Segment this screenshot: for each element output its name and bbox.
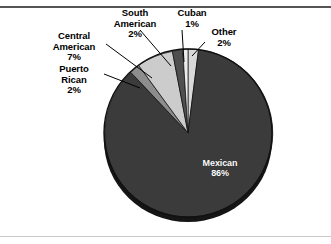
pie-label-cuban-line1: Cuban (177, 7, 206, 18)
pie-label-puerto-rican-line1: Puerto (59, 63, 89, 74)
pie-label-south-american-line1: South (122, 7, 148, 18)
pie-label-other-value: 2% (203, 38, 245, 49)
pie-label-south-american-value: 2% (102, 29, 168, 40)
pie-label-other: Other 2% (203, 27, 245, 48)
pie-label-puerto-rican: Puerto Rican 2% (44, 64, 104, 96)
pie-label-puerto-rican-line2: Rican (61, 74, 86, 85)
pie-label-central-american: Central American 7% (43, 31, 105, 63)
pie-label-south-american: South American 2% (102, 8, 168, 40)
pie-label-central-american-line2: American (53, 41, 96, 52)
pie-label-central-american-value: 7% (43, 52, 105, 63)
pie-label-south-american-line2: American (114, 18, 157, 29)
pie-label-puerto-rican-value: 2% (44, 85, 104, 96)
pie-label-other-line1: Other (212, 26, 237, 37)
pie-label-central-american-line1: Central (58, 30, 90, 41)
pie-label-mexican-value: 86% (191, 168, 249, 178)
pie-label-mexican: Mexican 86% (191, 158, 249, 178)
pie-label-cuban: Cuban 1% (168, 8, 216, 29)
pie-label-mexican-line1: Mexican (203, 158, 238, 168)
chart-page: Central American 7% Puerto Rican 2% Sout… (0, 0, 331, 244)
